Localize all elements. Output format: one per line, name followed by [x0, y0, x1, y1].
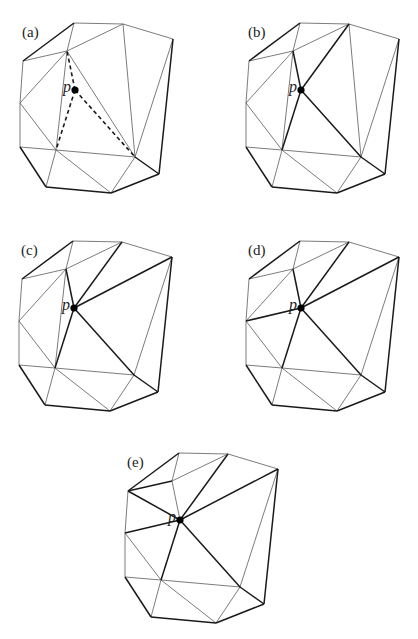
point-p-marker — [176, 516, 183, 523]
thin-edge-E-H — [282, 51, 293, 150]
thick-edge-K-L — [151, 617, 216, 623]
point-p-marker — [297, 304, 304, 311]
point-p-marker — [70, 304, 77, 311]
panel-a: (a)p — [20, 23, 173, 193]
triangulation-figure: (a)p (b)p (c)p (d)p (e)p — [0, 0, 418, 639]
thick-edge-I-J — [361, 157, 385, 174]
thick-edge-K-L — [272, 405, 337, 411]
dashed-edge-p-I — [75, 90, 135, 157]
thin-edge-G-H — [246, 365, 282, 368]
thin-edge-F-H — [246, 103, 282, 150]
thick-edge-L-J — [337, 174, 385, 193]
panel-label: (e) — [127, 454, 144, 471]
thick-edge-p-C — [301, 257, 399, 308]
thin-edge-B-C — [122, 242, 172, 257]
thin-edge-H-L — [56, 150, 111, 193]
thin-edge-F-H — [19, 321, 55, 368]
thick-edge-p-H — [282, 90, 301, 150]
thick-edge-I-J — [240, 587, 264, 604]
thin-edge-G-H — [246, 147, 282, 150]
thin-edge-H-I — [161, 580, 240, 587]
thin-edge-B-C — [349, 242, 399, 257]
thin-edge-H-I — [282, 150, 361, 157]
thin-edge-E-H — [55, 269, 66, 368]
thick-edge-p-C — [74, 257, 172, 308]
thick-edge-L-J — [337, 392, 385, 411]
thin-edge-H-K — [272, 368, 282, 405]
thick-edge-p-H — [161, 520, 180, 580]
thin-edge-H-K — [151, 580, 161, 617]
thick-edge-G-K — [19, 365, 45, 405]
thin-edge-D-F — [19, 279, 22, 321]
thin-edge-E-H — [56, 51, 67, 150]
thin-edge-G-H — [19, 365, 55, 368]
thin-edge-B-E — [66, 242, 122, 269]
thick-edge-J-C — [264, 469, 278, 604]
thin-edge-H-I — [55, 368, 134, 375]
panel-label: (a) — [22, 24, 39, 41]
thick-edge-L-J — [111, 174, 159, 193]
thick-edge-I-J — [361, 375, 385, 392]
thick-edge-J-C — [159, 39, 173, 174]
point-p-marker — [297, 86, 304, 93]
thin-edge-A-B — [74, 23, 123, 24]
thick-edge-J-C — [385, 39, 399, 174]
thick-edge-p-H — [282, 308, 301, 368]
thin-edge-G-H — [20, 147, 56, 150]
dashed-edge-p-H — [56, 90, 75, 150]
thick-edge-G-K — [246, 365, 272, 405]
thin-edge-D-F — [246, 279, 249, 321]
thin-edge-B-C — [123, 24, 173, 39]
thick-edge-p-B — [74, 242, 122, 308]
panel-e: (e)p — [125, 453, 278, 623]
point-p-label: p — [167, 508, 176, 526]
thin-edge-F-H — [125, 533, 161, 580]
panel-b: (b)p — [246, 23, 399, 193]
thick-edge-K-L — [46, 187, 111, 193]
panel-label: (d) — [248, 242, 266, 259]
thin-edge-G-H — [125, 577, 161, 580]
thin-edge-H-L — [282, 368, 337, 411]
thin-edge-H-I — [56, 150, 135, 157]
thick-edge-p-B — [301, 242, 349, 308]
thin-edge-H-K — [45, 368, 55, 405]
thick-edge-p-H — [55, 308, 74, 368]
point-p-label: p — [61, 296, 70, 314]
thin-edge-B-E — [172, 454, 228, 481]
point-p-label: p — [288, 78, 297, 96]
panel-c: (c)p — [19, 241, 172, 411]
thin-edge-E-I — [67, 51, 135, 157]
thin-edge-H-L — [282, 150, 337, 193]
thin-edge-B-C — [349, 24, 399, 39]
thick-edge-p-I — [301, 90, 361, 157]
thin-edge-B-E — [67, 24, 123, 51]
thick-edge-G-K — [125, 577, 151, 617]
thick-edge-I-J — [134, 375, 158, 392]
thick-edge-G-K — [20, 147, 46, 187]
thick-edge-p-B — [180, 454, 228, 520]
thick-edge-p-C — [180, 469, 278, 520]
thin-edge-D-F — [20, 61, 23, 103]
thick-edge-p-B — [301, 24, 349, 90]
thin-edge-A-B — [73, 241, 122, 242]
thin-edge-H-I — [282, 368, 361, 375]
thin-edge-D-F — [125, 491, 128, 533]
thin-edge-H-L — [161, 580, 216, 623]
panel-label: (b) — [248, 24, 266, 41]
thick-edge-I-J — [135, 157, 159, 174]
panel-label: (c) — [21, 242, 38, 259]
thick-edge-J-C — [385, 257, 399, 392]
thick-edge-K-L — [272, 187, 337, 193]
thin-edge-H-K — [272, 150, 282, 187]
point-p-label: p — [288, 296, 297, 314]
thick-edge-p-I — [301, 308, 361, 375]
thin-edge-A-B — [300, 241, 349, 242]
thick-edge-p-I — [180, 520, 240, 587]
thick-edge-L-J — [216, 604, 264, 623]
thin-edge-D-F — [246, 61, 249, 103]
thin-edge-B-I — [349, 24, 361, 157]
thin-edge-A-B — [300, 23, 349, 24]
thin-edge-A-B — [179, 453, 228, 454]
thick-edge-G-K — [246, 147, 272, 187]
thick-edge-K-L — [45, 405, 110, 411]
